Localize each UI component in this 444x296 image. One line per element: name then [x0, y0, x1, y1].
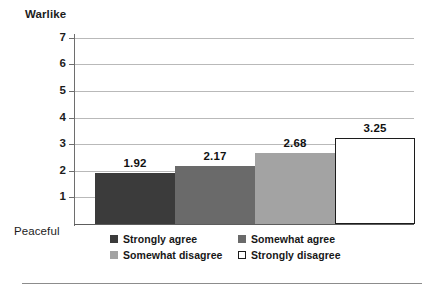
legend-swatch-icon	[238, 235, 246, 243]
bar-4	[335, 138, 415, 224]
legend-item-strongly-disagree[interactable]: Strongly disagree	[238, 249, 341, 261]
bar-2	[175, 166, 255, 224]
bar-value-label-2: 2.17	[175, 151, 255, 163]
legend-swatch-icon	[110, 235, 118, 243]
plot-area: 7654321 Warlike Peaceful 1.922.172.683.2…	[0, 0, 444, 232]
legend-swatch-icon	[238, 251, 246, 259]
legend-row: Somewhat disagreeStrongly disagree	[110, 247, 360, 263]
legend-swatch-icon	[110, 251, 118, 259]
legend-item-somewhat-agree[interactable]: Somewhat agree	[238, 233, 335, 245]
legend-item-somewhat-disagree[interactable]: Somewhat disagree	[110, 249, 238, 261]
legend-item-label: Strongly agree	[123, 233, 197, 245]
legend-item-label: Strongly disagree	[251, 249, 341, 261]
legend-item-label: Somewhat agree	[251, 233, 335, 245]
bars-layer: 1.922.172.683.25	[0, 0, 444, 232]
footer-rule	[22, 283, 422, 284]
chart-legend: Strongly agreeSomewhat agreeSomewhat dis…	[110, 231, 360, 263]
legend-item-strongly-agree[interactable]: Strongly agree	[110, 233, 238, 245]
legend-item-label: Somewhat disagree	[123, 249, 222, 261]
bar-value-label-1: 1.92	[95, 158, 175, 170]
legend-row: Strongly agreeSomewhat agree	[110, 231, 360, 247]
bar-value-label-3: 2.68	[255, 138, 335, 150]
bar-chart-figure: 7654321 Warlike Peaceful 1.922.172.683.2…	[0, 0, 444, 296]
bar-value-label-4: 3.25	[335, 123, 415, 135]
bar-1	[95, 173, 175, 224]
bar-3	[255, 153, 335, 224]
